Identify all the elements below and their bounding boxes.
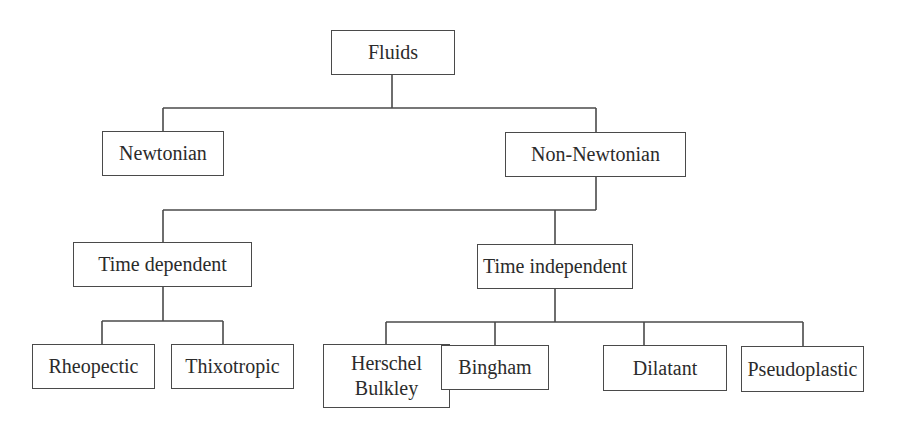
- node-pseudoplastic: Pseudoplastic: [741, 346, 864, 392]
- node-rheopectic: Rheopectic: [32, 344, 155, 389]
- node-bingham: Bingham: [441, 345, 549, 390]
- node-time-dependent: Time dependent: [73, 242, 252, 287]
- node-fluids: Fluids: [331, 30, 455, 75]
- node-time-independent: Time independent: [477, 244, 633, 289]
- node-non-newtonian: Non-Newtonian: [505, 132, 686, 177]
- node-dilatant: Dilatant: [603, 345, 727, 391]
- node-herschel-bulkley: Herschel Bulkley: [323, 344, 450, 408]
- node-newtonian: Newtonian: [102, 131, 224, 176]
- node-thixotropic: Thixotropic: [171, 344, 294, 389]
